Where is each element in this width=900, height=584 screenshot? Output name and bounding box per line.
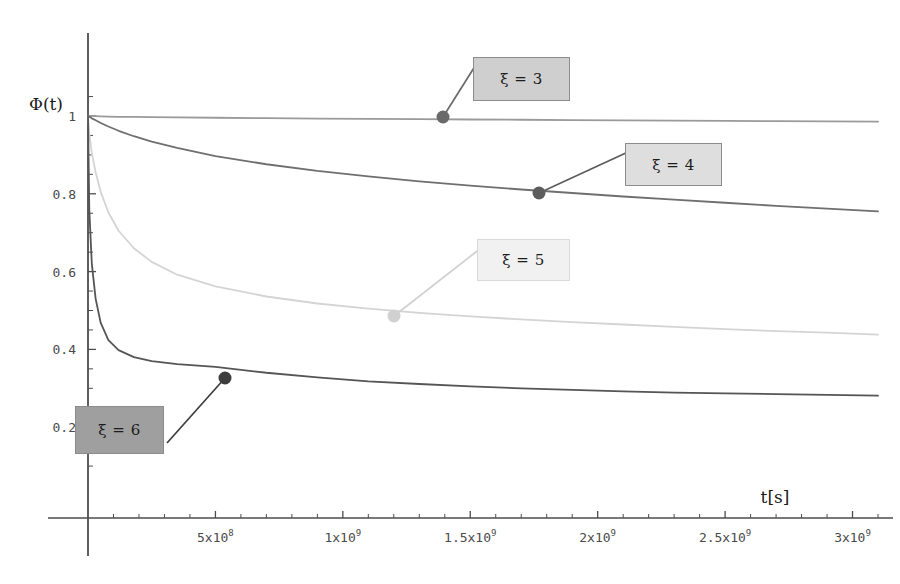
y-axis-tick-label: 0.8	[53, 187, 76, 202]
x-axis-tick-label: 1.5x109	[444, 528, 496, 545]
series-marker-dot	[437, 111, 450, 124]
legend-callout-xi-5: ξ = 5	[477, 239, 570, 281]
callout-leader-line	[443, 63, 477, 117]
plot-canvas: 5x1081x1091.5x1092x1092.5x1093x10910.80.…	[0, 0, 900, 584]
x-axis-ticks: 5x1081x1091.5x1092x1092.5x1093x109	[113, 511, 878, 545]
callout-leader-line	[394, 248, 481, 316]
x-axis-tick-label: 5x108	[197, 528, 234, 545]
legend-callout-label: ξ = 3	[500, 70, 542, 88]
legend-callout-xi-3: ξ = 3	[473, 57, 570, 101]
series-line-xi-3	[88, 116, 878, 122]
y-axis-tick-label: 0.6	[53, 265, 76, 280]
series-line-xi-4	[88, 116, 878, 211]
series-marker-dot	[219, 372, 232, 385]
x-axis-tick-label: 2x109	[579, 528, 616, 545]
x-axis-tick-label: 3x109	[834, 528, 871, 545]
series-marker-dot	[388, 310, 401, 323]
x-axis-title: t[s]	[761, 487, 790, 507]
x-axis-tick-label: 1x109	[324, 528, 361, 545]
legend-callout-label: ξ = 4	[652, 156, 694, 174]
legend-callout-label: ξ = 6	[98, 421, 140, 439]
y-axis-tick-label: 0.4	[53, 342, 77, 357]
callout-leader-line	[539, 152, 628, 193]
y-axis-title: Φ(t)	[29, 94, 63, 114]
x-axis-tick-label: 2.5x109	[699, 528, 751, 545]
y-axis-tick-label: 0.2	[53, 420, 76, 435]
legend-callout-label: ξ = 5	[502, 251, 544, 269]
legend-callout-xi-4: ξ = 4	[625, 143, 722, 186]
y-axis-tick-label: 1	[68, 109, 76, 124]
series-marker-dot	[533, 187, 546, 200]
callout-leader-line	[167, 378, 225, 443]
series-line-xi-5	[88, 116, 878, 335]
chart-figure: 5x1081x1091.5x1092x1092.5x1093x10910.80.…	[0, 0, 900, 584]
legend-callout-xi-6: ξ = 6	[75, 406, 164, 454]
